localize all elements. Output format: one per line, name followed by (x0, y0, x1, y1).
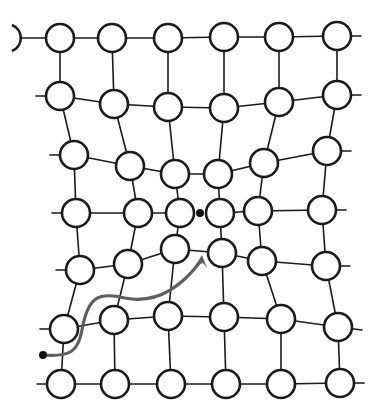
lattice-atom (46, 24, 74, 52)
lattice-atom (62, 199, 90, 227)
lattice-atom (161, 235, 189, 263)
lattice-diagram (0, 0, 391, 418)
lattice-atom (326, 369, 354, 397)
lattice-atom (124, 199, 152, 227)
lattice-atom (212, 370, 240, 398)
lattice-atom (154, 93, 182, 121)
lattice-atom (313, 137, 341, 165)
lattice-atom (308, 196, 336, 224)
lattice-atom (114, 250, 142, 278)
lattice-atom (210, 23, 238, 51)
lattice-atom (98, 24, 126, 52)
lattice-atom (244, 197, 272, 225)
lattice-atom (208, 239, 236, 267)
dislocation-core-dot (196, 209, 204, 217)
lattice-atom (265, 23, 293, 51)
lattice-atom (250, 149, 278, 177)
lattice-atom (46, 82, 74, 110)
lattice-atom (267, 305, 295, 333)
lattice-atom (157, 370, 185, 398)
lattice-atom (47, 370, 75, 398)
path-start-dot (39, 351, 47, 359)
lattice-atom (166, 199, 194, 227)
lattice-atom (324, 313, 352, 341)
lattice-atom (210, 303, 238, 331)
lattice-atom (206, 199, 234, 227)
lattice-atom (265, 88, 293, 116)
partial-atom (12, 25, 21, 51)
lattice-atom (267, 370, 295, 398)
lattice-atom (210, 94, 238, 122)
lattice-atom (116, 152, 144, 180)
lattice-atom (66, 256, 94, 284)
lattice-atom (50, 315, 78, 343)
lattice-atom (154, 302, 182, 330)
lattice-atom (323, 81, 351, 109)
lattice-atom (101, 370, 129, 398)
lattice-atom (100, 306, 128, 334)
lattice-atom (312, 252, 340, 280)
lattice-atom (161, 160, 189, 188)
lattice-atom (154, 24, 182, 52)
lattice-atom (248, 247, 276, 275)
lattice-atom (204, 160, 232, 188)
lattice-atom (323, 22, 351, 50)
lattice-atom (100, 90, 128, 118)
lattice-atom (60, 141, 88, 169)
